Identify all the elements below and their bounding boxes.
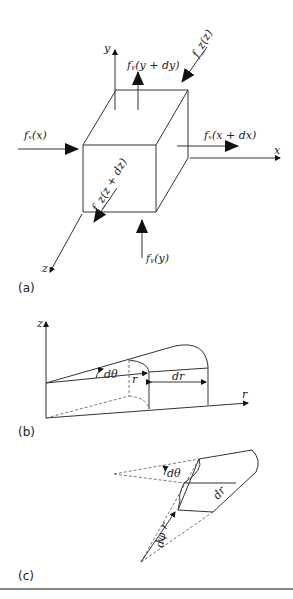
r-axis-label-b: r xyxy=(242,388,248,401)
r-label-b: r xyxy=(132,373,138,386)
fy-bottom-label: fᵧ(y) xyxy=(145,252,169,265)
fz-top-label: f_z(z) xyxy=(189,27,216,60)
panel-b-cylindrical-element: z r dθ r dr (b) xyxy=(18,317,248,439)
dtheta-label-b: dθ xyxy=(104,368,118,381)
dtheta-label-c: dθ xyxy=(167,467,181,480)
z-axis-label: z xyxy=(41,262,48,275)
r-axis-b xyxy=(46,403,248,418)
z-axis xyxy=(50,214,82,272)
fx-left-label: fₓ(x) xyxy=(23,129,47,142)
dr-label-b: dr xyxy=(172,370,185,383)
dphi-label-c: dφ xyxy=(153,531,168,548)
panel-a-caption: (a) xyxy=(18,281,35,295)
dr-label-c: dr xyxy=(210,484,228,502)
figure-canvas: y x z fₓ(x) fₓ(x + dx) fᵧ(y + dy) fᵧ(y) … xyxy=(0,0,293,599)
panel-a-cube-diagram: y x z fₓ(x) fₓ(x + dx) fᵧ(y + dy) fᵧ(y) … xyxy=(18,27,281,295)
fx-right-label: fₓ(x + dx) xyxy=(203,129,256,142)
fy-top-label: fᵧ(y + dy) xyxy=(126,59,179,72)
panel-c-spherical-element: r dθ dr dφ (c) xyxy=(18,450,258,583)
fz-bottom-label: f_z(z + dz) xyxy=(89,156,130,214)
z-axis-label-b: z xyxy=(36,317,43,330)
bottom-divider xyxy=(0,588,293,590)
panel-c-caption: (c) xyxy=(18,569,34,583)
x-axis-label: x xyxy=(274,144,281,157)
panel-b-caption: (b) xyxy=(18,425,35,439)
y-axis-label: y xyxy=(103,42,111,55)
